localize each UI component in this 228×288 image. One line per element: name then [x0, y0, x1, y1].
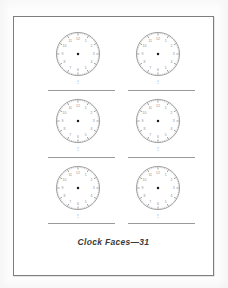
hour-numeral: 5	[165, 200, 167, 204]
hour-numeral: 11	[148, 39, 152, 43]
hour-numeral: 9	[141, 52, 143, 56]
center-dot	[157, 187, 159, 189]
answer-rule	[48, 157, 115, 158]
hour-numeral: 7	[69, 133, 71, 137]
clock-cell[interactable]: 121234567891011 ⋮	[118, 97, 198, 163]
hour-numeral: 1	[165, 173, 167, 177]
page-caption: Clock Faces—31	[13, 237, 214, 247]
hour-numeral: 1	[85, 39, 87, 43]
hour-numeral: 3	[93, 119, 95, 123]
hour-numeral: 5	[165, 133, 167, 137]
hour-numeral: 4	[91, 60, 93, 64]
clock-face-svg: 121234567891011	[54, 30, 102, 78]
hour-numeral: 4	[91, 127, 93, 131]
hour-numeral: 8	[144, 60, 146, 64]
hour-numeral: 11	[68, 39, 72, 43]
hour-numeral: 1	[85, 173, 87, 177]
hour-numeral: 8	[144, 194, 146, 198]
hour-numeral: 9	[141, 119, 143, 123]
clock-grid: 121234567891011 ⋮ 121234567891011 ⋮	[13, 16, 214, 276]
clock-cell[interactable]: 121234567891011 ⋮	[38, 30, 118, 96]
hour-numeral: 3	[93, 186, 95, 190]
hour-numeral: 3	[93, 52, 95, 56]
hour-numeral: 3	[173, 186, 175, 190]
center-dot	[157, 120, 159, 122]
hour-numeral: 1	[165, 106, 167, 110]
hour-numeral: 10	[63, 178, 67, 182]
hour-numeral: 10	[63, 44, 67, 48]
hour-numeral: 7	[149, 66, 151, 70]
clock-cell[interactable]: 121234567891011 ⋮	[118, 30, 198, 96]
hour-numeral: 8	[64, 127, 66, 131]
clock-cell[interactable]: 121234567891011 ⋮	[118, 164, 198, 230]
under-clock-mark: ⋮	[118, 213, 198, 218]
hour-numeral: 7	[69, 200, 71, 204]
under-clock-mark: ⋮	[118, 79, 198, 84]
center-dot	[77, 187, 79, 189]
hour-numeral: 4	[171, 60, 173, 64]
center-dot	[77, 53, 79, 55]
hour-numeral: 1	[85, 106, 87, 110]
hour-numeral: 5	[85, 66, 87, 70]
hour-numeral: 11	[68, 106, 72, 110]
hour-numeral: 2	[91, 178, 93, 182]
worksheet-page: 121234567891011 ⋮ 121234567891011 ⋮	[0, 0, 228, 288]
clock-face[interactable]: 121234567891011	[54, 30, 102, 78]
hour-numeral: 3	[173, 52, 175, 56]
hour-numeral: 4	[171, 194, 173, 198]
clock-face-svg: 121234567891011	[134, 30, 182, 78]
hour-numeral: 10	[143, 44, 147, 48]
hour-numeral: 6	[77, 135, 79, 139]
under-clock-mark: ⋮	[38, 79, 118, 84]
hour-numeral: 5	[85, 133, 87, 137]
under-clock-mark: ⋮	[38, 213, 118, 218]
hour-numeral: 12	[76, 171, 80, 175]
clock-face-svg: 121234567891011	[134, 97, 182, 145]
clock-face-svg: 121234567891011	[54, 97, 102, 145]
hour-numeral: 2	[171, 44, 173, 48]
hour-numeral: 6	[157, 68, 159, 72]
hour-numeral: 8	[64, 194, 66, 198]
under-clock-mark: ⋮	[118, 146, 198, 151]
hour-numeral: 2	[91, 111, 93, 115]
answer-rule	[128, 157, 195, 158]
clock-face[interactable]: 121234567891011	[134, 164, 182, 212]
clock-face[interactable]: 121234567891011	[134, 97, 182, 145]
answer-rule	[128, 90, 195, 91]
hour-numeral: 12	[76, 104, 80, 108]
hour-numeral: 4	[171, 127, 173, 131]
hour-numeral: 11	[68, 173, 72, 177]
hour-numeral: 1	[165, 39, 167, 43]
hour-numeral: 12	[156, 37, 160, 41]
hour-numeral: 6	[157, 202, 159, 206]
hour-numeral: 11	[148, 106, 152, 110]
hour-numeral: 2	[171, 178, 173, 182]
hour-numeral: 9	[61, 186, 63, 190]
answer-rule	[48, 223, 115, 224]
under-clock-mark: ⋮	[38, 146, 118, 151]
clock-cell[interactable]: 121234567891011 ⋮	[38, 97, 118, 163]
hour-numeral: 10	[63, 111, 67, 115]
hour-numeral: 7	[69, 66, 71, 70]
answer-rule	[48, 90, 115, 91]
hour-numeral: 3	[173, 119, 175, 123]
hour-numeral: 6	[157, 135, 159, 139]
answer-rule	[128, 223, 195, 224]
clock-face[interactable]: 121234567891011	[54, 97, 102, 145]
clock-face-svg: 121234567891011	[54, 164, 102, 212]
clock-face[interactable]: 121234567891011	[54, 164, 102, 212]
hour-numeral: 9	[61, 119, 63, 123]
hour-numeral: 12	[156, 171, 160, 175]
hour-numeral: 7	[149, 200, 151, 204]
hour-numeral: 9	[61, 52, 63, 56]
clock-face[interactable]: 121234567891011	[134, 30, 182, 78]
hour-numeral: 12	[76, 37, 80, 41]
hour-numeral: 8	[144, 127, 146, 131]
hour-numeral: 8	[64, 60, 66, 64]
hour-numeral: 9	[141, 186, 143, 190]
clock-cell[interactable]: 121234567891011 ⋮	[38, 164, 118, 230]
hour-numeral: 5	[85, 200, 87, 204]
hour-numeral: 6	[77, 202, 79, 206]
hour-numeral: 12	[156, 104, 160, 108]
hour-numeral: 10	[143, 178, 147, 182]
